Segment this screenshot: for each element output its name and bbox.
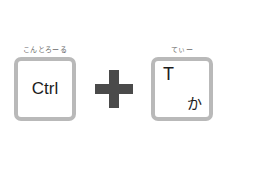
ctrl-key-reading: こんとろーる	[14, 44, 76, 54]
plus-icon	[95, 70, 133, 108]
ctrl-key-label: Ctrl	[18, 79, 72, 99]
t-key: T か	[151, 57, 213, 121]
t-key-label: T	[163, 64, 174, 85]
t-key-reading: てぃー	[151, 44, 213, 54]
t-key-kana-label: か	[187, 92, 202, 113]
ctrl-key: Ctrl	[14, 57, 76, 121]
